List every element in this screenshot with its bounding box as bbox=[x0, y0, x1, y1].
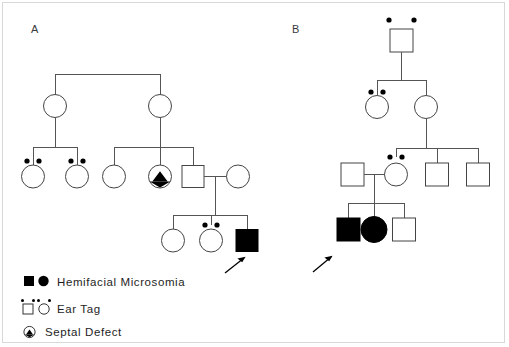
a-right-family-lines bbox=[114, 118, 193, 166]
legend: Hemifacial Microsomia Ear Tag Septal Def… bbox=[21, 276, 185, 339]
ear-tag-dot-icon bbox=[386, 17, 391, 22]
a-gen1-sibship-lines bbox=[55, 74, 160, 95]
individual-b-iii-2[interactable] bbox=[385, 163, 408, 186]
ear-tag-dot-icon bbox=[37, 299, 40, 302]
individual-b-iii-1[interactable] bbox=[341, 163, 364, 186]
ear-tag-dot-icon bbox=[21, 299, 24, 302]
ear-tag-dot-icon bbox=[48, 299, 51, 302]
ear-tag-dot-icon bbox=[214, 222, 219, 227]
proband-arrow-b bbox=[313, 256, 333, 272]
b-gen4-sibship-lines bbox=[348, 203, 404, 218]
individual-a-ii-4-group bbox=[149, 165, 172, 188]
individual-a-i-2[interactable] bbox=[149, 95, 172, 118]
panel-label-b: B bbox=[292, 23, 300, 35]
ear-tag-dot-icon bbox=[36, 158, 41, 163]
filled-circle-icon bbox=[38, 276, 48, 286]
individual-b-iv-1[interactable] bbox=[337, 218, 360, 241]
ear-tag-dot-icon bbox=[24, 158, 29, 163]
ear-tag-dot-icon bbox=[368, 89, 373, 94]
a-mating-lines bbox=[204, 177, 227, 216]
ear-tag-dot-icon bbox=[387, 154, 392, 159]
individual-a-ii-6[interactable] bbox=[227, 165, 250, 188]
ear-tag-dot-icon bbox=[380, 89, 385, 94]
ear-tag-dot-icon bbox=[68, 158, 73, 163]
individual-b-i-1-group bbox=[386, 17, 416, 52]
a-gen3-sibship-lines bbox=[173, 215, 247, 229]
individual-a-ii-3[interactable] bbox=[103, 165, 126, 188]
filled-square-icon bbox=[24, 276, 34, 286]
individual-b-i-1[interactable] bbox=[390, 29, 413, 52]
legend-item-hemifacial-microsomia: Hemifacial Microsomia bbox=[24, 276, 185, 288]
b-gen2-sibship-lines bbox=[377, 52, 426, 95]
ear-tag-dot-icon bbox=[80, 158, 85, 163]
pedigree-canvas: A B bbox=[0, 0, 509, 347]
individual-b-iii-3[interactable] bbox=[426, 163, 449, 186]
circle-with-ear-tags-icon bbox=[39, 304, 49, 314]
panel-label-a: A bbox=[31, 23, 39, 35]
ear-tag-dot-icon bbox=[411, 17, 416, 22]
pedigree-b bbox=[313, 17, 490, 272]
square-with-ear-tags-icon bbox=[23, 304, 33, 314]
legend-label-ear-tag: Ear Tag bbox=[57, 303, 101, 315]
ear-tag-dot-icon bbox=[32, 299, 35, 302]
ear-tag-dot-icon bbox=[202, 222, 207, 227]
individual-b-iv-2[interactable] bbox=[361, 217, 387, 243]
pedigree-a bbox=[22, 74, 259, 273]
individual-b-iv-3[interactable] bbox=[393, 218, 416, 241]
individual-a-iii-3[interactable] bbox=[236, 230, 258, 252]
individual-a-iii-1[interactable] bbox=[162, 229, 185, 252]
legend-item-septal-defect: Septal Defect bbox=[24, 326, 122, 338]
legend-label-septal-defect: Septal Defect bbox=[45, 326, 122, 338]
ear-tag-dot-icon bbox=[399, 154, 404, 159]
individual-a-iii-2[interactable] bbox=[200, 229, 223, 252]
individual-a-iii-2-group bbox=[200, 222, 223, 252]
individual-a-ii-1[interactable] bbox=[22, 165, 45, 188]
b-gen3-sibship-lines bbox=[396, 119, 478, 164]
pedigree-figure: A B bbox=[0, 0, 509, 347]
a-left-family-lines bbox=[33, 118, 77, 166]
individual-b-ii-2[interactable] bbox=[415, 96, 438, 119]
individual-a-ii-5[interactable] bbox=[182, 166, 204, 188]
individual-b-ii-1[interactable] bbox=[366, 96, 389, 119]
individual-b-iii-2-group bbox=[385, 154, 408, 186]
proband-arrow-a bbox=[225, 257, 246, 273]
individual-a-ii-2[interactable] bbox=[66, 165, 89, 188]
b-mating-lines bbox=[364, 175, 385, 204]
individual-a-i-1[interactable] bbox=[44, 95, 67, 118]
legend-item-ear-tag: Ear Tag bbox=[21, 299, 101, 315]
individual-b-iii-4[interactable] bbox=[467, 163, 490, 186]
legend-label-hemifacial-microsomia: Hemifacial Microsomia bbox=[57, 276, 185, 288]
